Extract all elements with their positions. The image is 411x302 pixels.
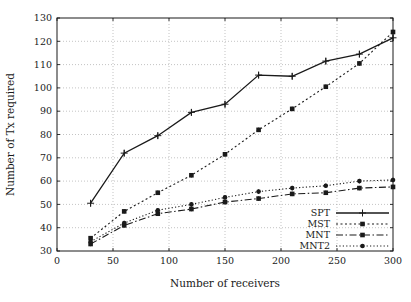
chart-canvas: 0501001502002503003040506070809010011012… xyxy=(0,0,411,302)
figure: 0501001502002503003040506070809010011012… xyxy=(0,0,411,302)
y-tick-label: 30 xyxy=(40,245,52,256)
x-tick-label: 300 xyxy=(384,255,402,266)
gridlines xyxy=(57,18,393,251)
series-MST-line xyxy=(91,32,393,238)
legend-label-MNT2: MNT2 xyxy=(300,240,330,251)
x-tick-label: 100 xyxy=(160,255,178,266)
series-MNT-line xyxy=(91,187,393,244)
data-series xyxy=(87,30,396,247)
y-tick-label: 50 xyxy=(40,199,52,210)
x-axis-title: Number of receivers xyxy=(170,277,280,289)
legend-label-SPT: SPT xyxy=(311,207,331,218)
legend-MST-marker xyxy=(360,222,365,227)
legend: SPTMSTMNTMNT2 xyxy=(300,207,389,251)
series-MST-marker xyxy=(122,209,127,214)
y-axis-title: Number of Tx required xyxy=(4,73,16,196)
series-MNT-marker xyxy=(391,185,396,190)
series-MNT2-marker xyxy=(290,186,295,191)
series-MNT2-marker xyxy=(391,178,396,183)
series-MST-marker xyxy=(290,107,295,112)
y-tick-label: 90 xyxy=(40,105,52,116)
y-tick-label: 130 xyxy=(34,12,52,23)
series-MNT-marker xyxy=(189,207,194,212)
series-MNT2-marker xyxy=(324,183,329,188)
series-MNT2-marker xyxy=(357,179,362,184)
series-MNT2-marker xyxy=(156,208,161,213)
x-tick-label: 250 xyxy=(328,255,346,266)
series-MNT-marker xyxy=(357,186,362,191)
y-tick-label: 100 xyxy=(34,82,52,93)
series-MST-marker xyxy=(256,128,261,133)
y-tick-label: 110 xyxy=(34,59,52,70)
axis-tick-labels: 0501001502002503003040506070809010011012… xyxy=(34,12,402,266)
y-tick-label: 70 xyxy=(40,152,52,163)
y-tick-label: 40 xyxy=(40,222,52,233)
series-MST-marker xyxy=(223,152,228,157)
series-MNT2-marker xyxy=(88,239,93,244)
series-MNT2-marker xyxy=(189,202,194,207)
series-MNT-marker xyxy=(223,200,228,205)
y-tick-label: 60 xyxy=(40,175,52,186)
series-MST-marker xyxy=(357,61,362,66)
series-MST-marker xyxy=(189,173,194,178)
series-MNT2-marker xyxy=(122,221,127,226)
y-tick-label: 80 xyxy=(40,129,52,140)
y-tick-label: 120 xyxy=(34,36,52,47)
series-MNT-marker xyxy=(324,190,329,195)
series-MST-marker xyxy=(324,84,329,89)
series-MNT2-marker xyxy=(256,189,261,194)
legend-MNT2-marker xyxy=(360,244,365,249)
series-MNT-marker xyxy=(290,192,295,197)
series-MNT-marker xyxy=(256,196,261,201)
x-tick-label: 0 xyxy=(54,255,60,266)
series-MNT2-line xyxy=(91,180,393,242)
series-MNT2-marker xyxy=(223,195,228,200)
series-SPT-line xyxy=(91,38,393,203)
x-tick-label: 50 xyxy=(107,255,119,266)
x-tick-label: 200 xyxy=(272,255,290,266)
legend-label-MST: MST xyxy=(307,218,330,229)
legend-label-MNT: MNT xyxy=(306,229,331,240)
series-MST-marker xyxy=(391,30,396,35)
series-MST-marker xyxy=(156,190,161,195)
x-tick-label: 150 xyxy=(216,255,234,266)
legend-MNT-marker xyxy=(360,233,365,238)
